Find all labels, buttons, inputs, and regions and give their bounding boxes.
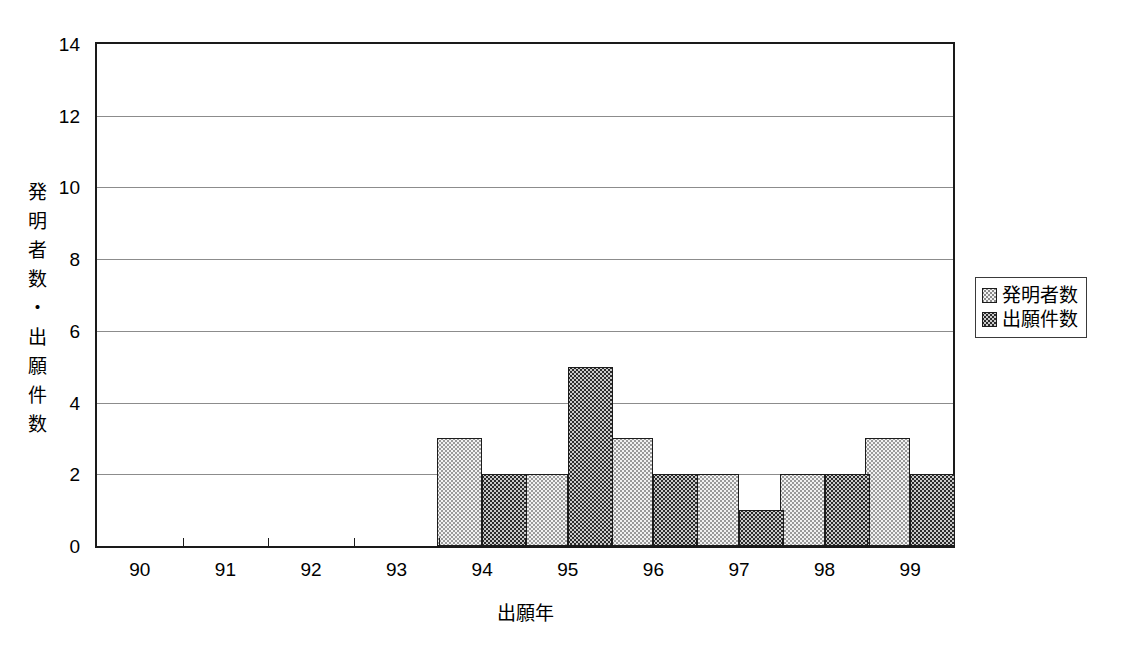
- x-axis-tick-label: 96: [623, 560, 683, 579]
- x-axis-tick: [782, 538, 783, 546]
- y-axis-title-char: 数: [22, 265, 52, 294]
- x-axis-tick: [354, 538, 355, 546]
- legend-item-label: 発明者数: [1002, 286, 1078, 305]
- x-axis-tick-label: 95: [538, 560, 598, 579]
- legend-item: 出願件数: [982, 307, 1078, 331]
- x-axis-tick-label: 97: [709, 560, 769, 579]
- bar: [825, 474, 870, 546]
- x-axis-tick: [183, 538, 184, 546]
- bar: [482, 474, 527, 546]
- legend-swatch-icon: [982, 288, 997, 303]
- gridline: [97, 259, 953, 260]
- y-axis-tick-label: 2: [44, 465, 80, 484]
- y-axis-title-char: 明: [22, 207, 52, 236]
- legend-item: 発明者数: [982, 283, 1078, 307]
- plot-area: [95, 42, 955, 548]
- x-axis-tick-label: 90: [110, 560, 170, 579]
- y-axis-title-char: 数: [22, 410, 52, 439]
- x-axis-tick-label: 92: [281, 560, 341, 579]
- legend-item-label: 出願件数: [1002, 310, 1078, 329]
- bar: [780, 474, 825, 546]
- y-axis-tick-label: 6: [44, 322, 80, 341]
- bar: [910, 474, 955, 546]
- bar: [568, 367, 613, 546]
- gridline: [97, 187, 953, 188]
- x-axis-tick: [696, 538, 697, 546]
- x-axis-tick-label: 94: [452, 560, 512, 579]
- bar: [437, 438, 482, 546]
- bar: [694, 474, 739, 546]
- x-axis-tick-label: 93: [367, 560, 427, 579]
- x-axis-title: 出願年: [0, 598, 1050, 625]
- bar: [653, 474, 698, 546]
- x-axis-tick: [867, 538, 868, 546]
- legend-swatch-icon: [982, 312, 997, 327]
- y-axis-title-char: 願: [22, 352, 52, 381]
- x-axis-tick: [525, 538, 526, 546]
- y-axis-tick-label: 10: [44, 178, 80, 197]
- bar: [865, 438, 910, 546]
- y-axis-tick-label: 14: [44, 35, 80, 54]
- bar: [739, 510, 784, 546]
- y-axis-tick-label: 8: [44, 250, 80, 269]
- y-axis-title-char: ・: [22, 294, 52, 323]
- gridline: [97, 403, 953, 404]
- x-axis-tick-label: 91: [195, 560, 255, 579]
- x-axis-tick: [268, 538, 269, 546]
- gridline: [97, 116, 953, 117]
- y-axis-tick-label: 4: [44, 394, 80, 413]
- bar-chart: 発明者数・出願件数 02468101214 909192939495969798…: [0, 0, 1128, 646]
- x-axis-tick-label: 98: [795, 560, 855, 579]
- bar: [523, 474, 568, 546]
- bar: [608, 438, 653, 546]
- x-axis-tick-label: 99: [880, 560, 940, 579]
- y-axis-tick-label: 12: [44, 107, 80, 126]
- y-axis-tick-label: 0: [44, 537, 80, 556]
- x-axis-tick: [611, 538, 612, 546]
- x-axis-tick: [439, 538, 440, 546]
- chart-legend: 発明者数出願件数: [975, 277, 1087, 338]
- gridline: [97, 331, 953, 332]
